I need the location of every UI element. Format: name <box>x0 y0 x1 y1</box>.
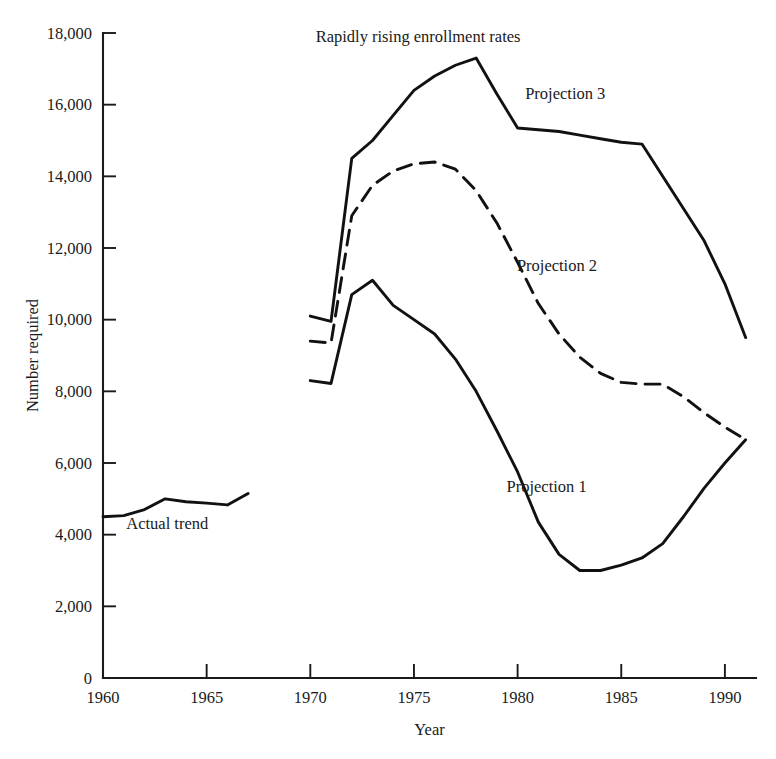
x-tick-label: 1970 <box>294 688 327 707</box>
series-projection-1 <box>310 280 745 570</box>
y-tick-label: 8,000 <box>55 382 92 401</box>
x-axis-ticks: 1960196519701975198019851990 <box>87 664 742 707</box>
x-tick-label: 1975 <box>397 688 430 707</box>
annotation-projection-1: Projection 1 <box>507 477 587 496</box>
y-tick-label: 4,000 <box>55 525 92 544</box>
annotation-actual-trend: Actual trend <box>126 514 209 533</box>
x-tick-label: 1965 <box>190 688 223 707</box>
annotation-projection-2: Projection 2 <box>517 256 597 275</box>
y-axis-title: Number required <box>23 298 42 412</box>
chart-container: 02,0004,0006,0008,00010,00012,00014,0001… <box>0 0 776 759</box>
x-axis-title: Year <box>414 720 445 739</box>
y-tick-label: 0 <box>84 669 92 688</box>
x-tick-label: 1980 <box>501 688 534 707</box>
y-tick-label: 16,000 <box>47 95 92 114</box>
y-tick-label: 14,000 <box>47 167 92 186</box>
annotation-rapidly-rising-enrollment-rates: Rapidly rising enrollment rates <box>316 27 521 46</box>
y-axis-ticks: 02,0004,0006,0008,00010,00012,00014,0001… <box>47 24 116 688</box>
x-tick-label: 1960 <box>87 688 120 707</box>
annotations-group: Rapidly rising enrollment ratesActual tr… <box>126 27 605 533</box>
y-tick-label: 6,000 <box>55 454 92 473</box>
x-tick-label: 1990 <box>708 688 741 707</box>
annotation-projection-3: Projection 3 <box>525 84 605 103</box>
y-tick-label: 2,000 <box>55 597 92 616</box>
y-tick-label: 12,000 <box>47 239 92 258</box>
x-tick-label: 1985 <box>605 688 638 707</box>
line-chart-figure: 02,0004,0006,0008,00010,00012,00014,0001… <box>0 0 776 759</box>
series-actual-trend <box>103 493 248 516</box>
data-series-group <box>103 58 746 570</box>
y-tick-label: 10,000 <box>47 310 92 329</box>
y-tick-label: 18,000 <box>47 24 92 43</box>
